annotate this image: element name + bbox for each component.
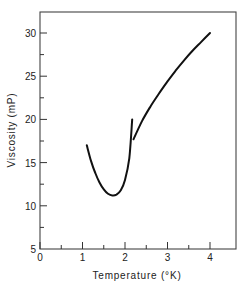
chart-canvas: 01234 51015202530 Temperature (°K) Visco… <box>0 0 246 287</box>
x-axis-ticks: 01234 <box>37 242 213 263</box>
y-tick-label: 10 <box>25 201 37 212</box>
x-tick-label: 1 <box>80 252 86 263</box>
y-tick-label: 15 <box>25 158 37 169</box>
y-tick-label: 25 <box>25 71 37 82</box>
data-curves <box>87 33 210 195</box>
curve-below-lambda <box>87 119 132 195</box>
y-tick-label: 20 <box>25 114 37 125</box>
y-axis-label: Viscosity (mP) <box>6 93 17 168</box>
x-tick-label: 4 <box>207 252 213 263</box>
curve-above-lambda <box>134 33 211 139</box>
x-tick-label: 0 <box>37 252 43 263</box>
y-axis-ticks: 51015202530 <box>25 28 47 255</box>
x-tick-label: 3 <box>165 252 171 263</box>
y-tick-label: 5 <box>30 244 36 255</box>
x-tick-label: 2 <box>122 252 128 263</box>
x-axis-label: Temperature (°K) <box>92 270 181 281</box>
y-tick-label: 30 <box>25 28 37 39</box>
